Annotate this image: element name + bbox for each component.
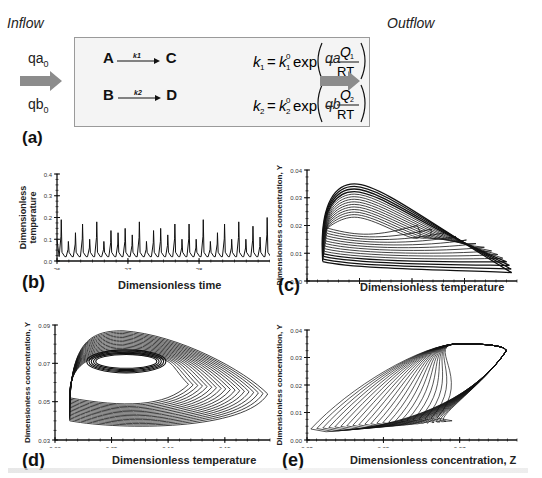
svg-text:0.07: 0.07 xyxy=(454,446,466,448)
reaction-2: B k2 D xyxy=(103,86,177,103)
temperature-time-plot: 0.00.10.20.30.4262728Dimensionlesstemper… xyxy=(0,150,270,270)
svg-text:k2: k2 xyxy=(134,89,142,96)
svg-text:0.04: 0.04 xyxy=(290,328,302,334)
svg-text:2: 2 xyxy=(350,96,354,103)
reaction-arrow-icon: k1 xyxy=(117,52,161,66)
svg-text:0.03: 0.03 xyxy=(290,355,302,361)
x-axis-label: Dimensionless time xyxy=(118,279,221,291)
svg-text:0.1: 0.1 xyxy=(44,237,53,243)
x-axis-label: Dimensionless temperature xyxy=(112,454,256,466)
svg-text:0.09: 0.09 xyxy=(38,323,50,329)
svg-text:0.2: 0.2 xyxy=(44,215,53,221)
panel-label-a: (a) xyxy=(22,128,43,148)
svg-text:0.3: 0.3 xyxy=(44,193,53,199)
svg-text:Dimensionless concentration, Y: Dimensionless concentration, Y xyxy=(275,324,284,446)
inflow-title: Inflow xyxy=(7,15,44,31)
phase-plot-c: 0.000.010.020.030.040.000.050.100.15Dime… xyxy=(270,145,542,285)
inflow-a-label: qa0 xyxy=(28,50,49,69)
svg-text:Dimensionless: Dimensionless xyxy=(18,186,28,250)
svg-text:Dimensionless concentration, Y: Dimensionless concentration, Y xyxy=(275,164,284,285)
svg-text:0.02: 0.02 xyxy=(290,223,302,229)
svg-text:0.00: 0.00 xyxy=(290,438,302,444)
reaction-1: A k1 C xyxy=(103,49,176,66)
svg-text:0.07: 0.07 xyxy=(38,361,50,367)
inflow-arrow-icon xyxy=(20,71,64,91)
svg-text:0.03: 0.03 xyxy=(38,438,50,444)
svg-text:27: 27 xyxy=(125,267,132,270)
svg-text:Dimensionless concentration, Y: Dimensionless concentration, Y xyxy=(23,321,32,443)
svg-text:0.02: 0.02 xyxy=(290,383,302,389)
x-axis-label: Dimensionless concentration, Z xyxy=(350,454,516,466)
svg-text:1: 1 xyxy=(286,63,291,72)
svg-text:0.4: 0.4 xyxy=(44,172,53,178)
svg-text:=: = xyxy=(267,53,276,70)
panel-label-b: (b) xyxy=(22,272,45,293)
svg-text:temperature: temperature xyxy=(28,191,38,243)
svg-text:1: 1 xyxy=(350,53,354,60)
outflow-b-label: qb xyxy=(325,96,341,112)
reaction-arrow-icon: k2 xyxy=(118,89,162,103)
svg-text:2: 2 xyxy=(286,107,291,116)
svg-text:exp: exp xyxy=(293,97,317,114)
x-axis-label: Dimensionless temperature xyxy=(360,281,504,293)
svg-text:0.04: 0.04 xyxy=(290,168,302,174)
phase-plot-e: 0.000.010.020.030.040.030.050.07Dimensio… xyxy=(270,308,542,448)
svg-text:0.01: 0.01 xyxy=(290,251,302,257)
phase-plot-d: 0.030.050.070.090.000.050.100.15Dimensio… xyxy=(0,308,272,448)
inflow-b-label: qb0 xyxy=(28,96,49,115)
svg-text:0: 0 xyxy=(286,52,291,61)
svg-text:k1: k1 xyxy=(133,52,141,59)
svg-text:0.05: 0.05 xyxy=(38,399,50,405)
outflow-title: Outflow xyxy=(387,15,434,31)
svg-text:1: 1 xyxy=(260,63,265,72)
svg-text:0: 0 xyxy=(286,96,291,105)
svg-text:=: = xyxy=(267,97,276,114)
panel-label-c: (c) xyxy=(278,275,300,296)
outflow-arrow-icon xyxy=(320,71,364,91)
svg-text:0.05: 0.05 xyxy=(106,446,118,448)
svg-text:0.10: 0.10 xyxy=(162,446,174,448)
figure-caption-cutoff xyxy=(8,468,528,473)
svg-text:0.00: 0.00 xyxy=(49,446,61,448)
svg-text:0.03: 0.03 xyxy=(301,446,313,448)
svg-text:exp: exp xyxy=(293,53,317,70)
outflow-a-label: qa xyxy=(325,50,341,66)
svg-text:26: 26 xyxy=(54,267,61,270)
svg-text:0.15: 0.15 xyxy=(219,446,231,448)
svg-text:0.0: 0.0 xyxy=(44,259,53,265)
svg-text:0.01: 0.01 xyxy=(290,410,302,416)
svg-text:2: 2 xyxy=(260,107,265,116)
svg-text:0.03: 0.03 xyxy=(290,195,302,201)
svg-text:28: 28 xyxy=(196,267,203,270)
svg-text:0.05: 0.05 xyxy=(378,446,390,448)
